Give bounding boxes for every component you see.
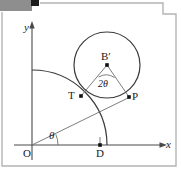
point-dot-T — [79, 94, 83, 98]
axis-label-x: x — [166, 139, 171, 150]
radius-B-to-P — [107, 65, 129, 97]
angle-arc-theta — [56, 134, 58, 145]
axis-label-y: y — [24, 22, 29, 33]
point-label-O: O — [23, 148, 31, 159]
geometry-figure: y x O D T P B′ θ 2θ — [0, 0, 181, 169]
angle-label-two-theta: 2θ — [98, 79, 108, 89]
point-dot-P — [127, 95, 131, 99]
angle-label-theta: θ — [49, 130, 54, 141]
ray-origin-to-P — [32, 97, 130, 145]
point-label-B-prime: B′ — [101, 51, 111, 62]
point-dot-B — [105, 63, 109, 67]
quarter-arc — [32, 70, 107, 145]
point-label-D: D — [96, 148, 104, 159]
point-label-P: P — [132, 91, 138, 102]
point-label-T: T — [68, 90, 75, 101]
y-axis-arrowhead — [29, 21, 34, 29]
